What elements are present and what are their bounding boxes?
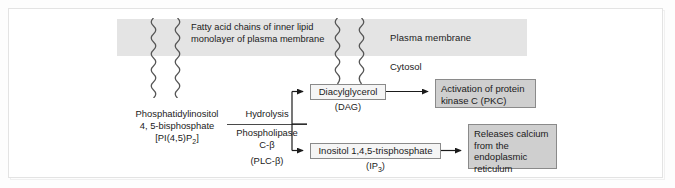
inositol-trisphosphate-label: Inositol 1,4,5-trisphosphate	[318, 145, 432, 157]
outcome-box-calcium-release[interactable]: Releases calcium from the endoplasmic re…	[468, 124, 557, 169]
inositol-trisphosphate-abbrev: (IP3)	[310, 161, 441, 173]
product-box-inositol-trisphosphate[interactable]: Inositol 1,4,5-trisphosphate	[310, 143, 441, 159]
calcium-line3: endoplasmic	[474, 151, 552, 163]
calcium-line2: from the	[474, 140, 552, 152]
diacylglycerol-label: Diacylglycerol	[319, 86, 378, 98]
diagram-canvas: Fatty acid chains of inner lipid monolay…	[0, 0, 675, 188]
product-box-diacylglycerol[interactable]: Diacylglycerol	[310, 84, 386, 100]
pkc-line1: Activation of protein	[441, 83, 531, 95]
diacylglycerol-abbrev: (DAG)	[310, 102, 386, 112]
calcium-line4: reticulum	[474, 163, 552, 175]
calcium-line1: Releases calcium	[474, 128, 552, 140]
pkc-line2: kinase C (PKC)	[441, 95, 531, 107]
outcome-box-pkc[interactable]: Activation of protein kinase C (PKC)	[435, 79, 536, 108]
